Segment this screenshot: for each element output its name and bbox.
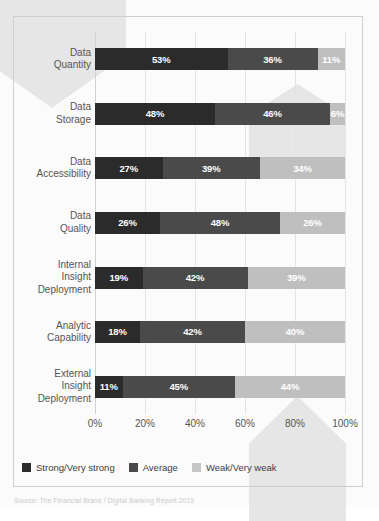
legend-item[interactable]: Average <box>129 462 178 473</box>
category-label-line: Insight <box>62 271 91 284</box>
category-label-line: Data <box>70 101 91 114</box>
bar-value-label: 36% <box>263 55 282 65</box>
stacked-bar[interactable]: 19%42%39% <box>95 267 345 289</box>
bar-row: 26%48%26% <box>95 196 345 251</box>
bar-segment-strong[interactable]: 53% <box>95 48 228 70</box>
stacked-bar[interactable]: 18%42%40% <box>95 321 345 343</box>
x-axis: 0%20%40%60%80%100% <box>95 418 345 434</box>
bar-segment-average[interactable]: 36% <box>228 48 318 70</box>
bar-value-label: 39% <box>202 164 221 174</box>
bar-segment-weak[interactable]: 44% <box>235 376 345 398</box>
bar-segment-average[interactable]: 39% <box>163 157 261 179</box>
bar-segment-weak[interactable]: 34% <box>260 157 345 179</box>
category-label-line: Quantity <box>54 59 91 72</box>
category-axis: DataQuantityDataStorageDataAccessibility… <box>13 32 91 414</box>
bar-value-label: 45% <box>169 382 188 392</box>
category-label-line: Capability <box>47 332 91 345</box>
x-tick-label: 20% <box>135 418 155 429</box>
bar-row: 19%42%39% <box>95 250 345 305</box>
bar-segment-strong[interactable]: 26% <box>95 212 160 234</box>
bar-value-label: 19% <box>109 273 128 283</box>
legend-swatch-average-icon <box>129 463 138 472</box>
bar-row: 48%46%6% <box>95 87 345 142</box>
x-tick-label: 100% <box>332 418 358 429</box>
bar-value-label: 34% <box>293 164 312 174</box>
category-label: DataAccessibility <box>13 141 91 196</box>
bar-value-label: 42% <box>183 327 202 337</box>
legend-label: Average <box>143 462 178 473</box>
bar-segment-average[interactable]: 46% <box>215 103 330 125</box>
bar-segment-weak[interactable]: 11% <box>318 48 346 70</box>
bar-value-label: 11% <box>100 382 118 392</box>
bar-value-label: 44% <box>281 382 300 392</box>
bar-value-label: 46% <box>263 109 282 119</box>
bar-value-label: 26% <box>303 218 322 228</box>
bar-rows: 53%36%11%48%46%6%27%39%34%26%48%26%19%42… <box>95 32 345 414</box>
category-label: InternalInsightDeployment <box>13 250 91 305</box>
bar-value-label: 27% <box>119 164 138 174</box>
bar-value-label: 18% <box>108 327 127 337</box>
bar-segment-average[interactable]: 42% <box>143 267 248 289</box>
bar-segment-weak[interactable]: 40% <box>245 321 345 343</box>
bar-segment-strong[interactable]: 48% <box>95 103 215 125</box>
legend-item[interactable]: Strong/Very strong <box>22 462 115 473</box>
bar-value-label: 53% <box>152 55 171 65</box>
x-tick-label: 80% <box>285 418 305 429</box>
bar-row: 27%39%34% <box>95 141 345 196</box>
category-label-line: Data <box>70 47 91 60</box>
category-label-line: External <box>54 368 91 381</box>
category-label-line: Deployment <box>38 393 91 406</box>
bar-segment-average[interactable]: 48% <box>160 212 280 234</box>
bar-segment-strong[interactable]: 27% <box>95 157 163 179</box>
category-label: DataStorage <box>13 87 91 142</box>
stacked-bar[interactable]: 27%39%34% <box>95 157 345 179</box>
category-label: AnalyticCapability <box>13 305 91 360</box>
legend-label: Weak/Very weak <box>206 462 277 473</box>
bar-segment-average[interactable]: 45% <box>123 376 236 398</box>
legend-item[interactable]: Weak/Very weak <box>192 462 277 473</box>
category-label-line: Data <box>70 156 91 169</box>
category-label-line: Analytic <box>56 320 91 333</box>
category-label-line: Data <box>70 210 91 223</box>
legend-swatch-weak-icon <box>192 463 201 472</box>
bar-value-label: 39% <box>287 273 306 283</box>
x-tick-label: 0% <box>88 418 102 429</box>
bar-segment-strong[interactable]: 11% <box>95 376 123 398</box>
source-note: Source: The Financial Brand / Digital Ba… <box>14 497 194 504</box>
bar-value-label: 40% <box>286 327 305 337</box>
plot-area: 53%36%11%48%46%6%27%39%34%26%48%26%19%42… <box>95 32 345 414</box>
category-label: ExternalInsightDeployment <box>13 359 91 414</box>
stacked-bar[interactable]: 48%46%6% <box>95 103 345 125</box>
x-tick-label: 40% <box>185 418 205 429</box>
bar-segment-average[interactable]: 42% <box>140 321 245 343</box>
legend: Strong/Very strongAverageWeak/Very weak <box>22 462 276 473</box>
bar-row: 18%42%40% <box>95 305 345 360</box>
x-tick-label: 60% <box>235 418 255 429</box>
bar-row: 11%45%44% <box>95 359 345 414</box>
category-label-line: Accessibility <box>37 168 91 181</box>
stacked-bar[interactable]: 53%36%11% <box>95 48 345 70</box>
legend-label: Strong/Very strong <box>36 462 115 473</box>
category-label-line: Internal <box>58 259 91 272</box>
bar-segment-weak[interactable]: 26% <box>280 212 345 234</box>
stacked-bar[interactable]: 26%48%26% <box>95 212 345 234</box>
bar-segment-weak[interactable]: 39% <box>248 267 346 289</box>
bar-value-label: 26% <box>118 218 137 228</box>
stacked-bar[interactable]: 11%45%44% <box>95 376 345 398</box>
category-label: DataQuality <box>13 196 91 251</box>
legend-swatch-strong-icon <box>22 463 31 472</box>
bar-segment-strong[interactable]: 18% <box>95 321 140 343</box>
bar-row: 53%36%11% <box>95 32 345 87</box>
category-label-line: Deployment <box>38 284 91 297</box>
bar-value-label: 6% <box>331 109 345 119</box>
gridline-100 <box>345 32 346 414</box>
category-label: DataQuantity <box>13 32 91 87</box>
category-label-line: Quality <box>60 223 91 236</box>
bar-value-label: 11% <box>322 55 340 65</box>
category-label-line: Insight <box>62 380 91 393</box>
bar-value-label: 48% <box>146 109 165 119</box>
bar-segment-strong[interactable]: 19% <box>95 267 143 289</box>
bar-value-label: 42% <box>186 273 205 283</box>
bar-segment-weak[interactable]: 6% <box>330 103 345 125</box>
